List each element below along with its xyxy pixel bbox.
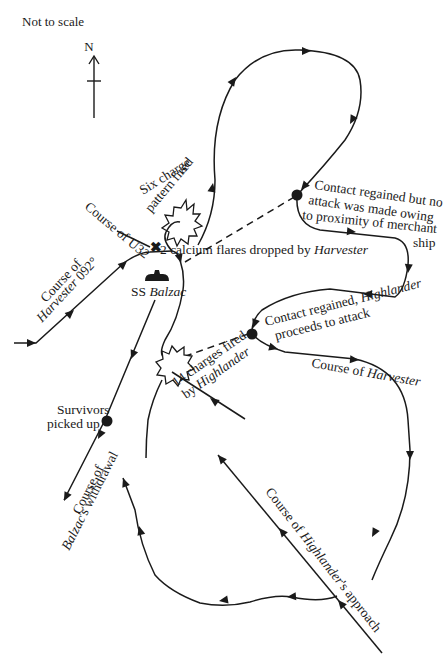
highlander-approach-course: [172, 372, 382, 653]
anti-submarine-action-diagram: Not to scale N ✖: [0, 0, 448, 662]
svg-text:Survivors: Survivors: [57, 402, 110, 417]
six-charge-burst-icon: [162, 200, 202, 246]
harvester-course-south: [162, 251, 184, 358]
svg-text:ship: ship: [413, 235, 436, 250]
survivors-label: Survivors picked up: [47, 402, 110, 431]
svg-text:picked up: picked up: [47, 416, 100, 431]
contact-no-attack-label: Contact regained but no attack was made …: [302, 177, 444, 250]
ship-icon: [145, 270, 169, 281]
compass-label: N: [84, 39, 94, 54]
harvester-course-label: Course of Harvester: [310, 355, 422, 389]
ss-balzac-label: SS Balzac: [131, 284, 186, 299]
flares-label: 2 calcium flares dropped by Harvester: [160, 242, 369, 257]
scale-note: Not to scale: [22, 14, 84, 29]
u32-course-label: Course of U32: [82, 199, 153, 262]
highlander-track-after-charges: [146, 380, 162, 458]
north-arrow-icon: N: [84, 39, 101, 118]
survivors-point: [102, 416, 113, 427]
balzac-withdrawal-label: Course of Balzac's withdrawal: [58, 449, 121, 553]
svg-text:Balzac's withdrawal: Balzac's withdrawal: [58, 449, 121, 553]
highlander-approach-label: Course of Highlander's approach: [263, 485, 385, 636]
